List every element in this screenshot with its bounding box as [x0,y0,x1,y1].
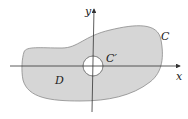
region-label: D [54,74,64,87]
inner-curve-label: C′ [106,52,117,65]
x-axis-label: x [176,70,183,83]
diagram-canvas: y x C C′ D [0,0,188,119]
outer-curve-label: C [161,30,170,43]
y-axis-label: y [84,5,92,18]
